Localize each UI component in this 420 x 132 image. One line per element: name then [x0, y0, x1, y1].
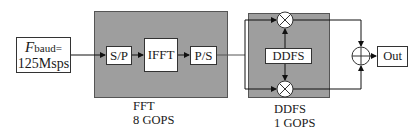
- ddfs-caption-ops: 1 GOPS: [274, 116, 315, 130]
- ps-block: P/S: [190, 46, 217, 65]
- input-rate-symbol: Fbaud=: [25, 40, 62, 56]
- multiplier-top-icon: [277, 12, 293, 28]
- fft-caption-name: FFT: [133, 99, 155, 113]
- ddfs-inner-block: DDFS: [265, 48, 312, 64]
- input-rate-subscript: baud: [34, 42, 55, 54]
- ifft-block: IFFT: [144, 38, 178, 72]
- input-rate-box: Fbaud= 125Msps: [16, 37, 71, 73]
- input-rate-value: 125Msps: [18, 56, 69, 71]
- output-block: Out: [377, 46, 408, 67]
- sp-block: S/P: [106, 46, 132, 65]
- adder-icon: [352, 47, 370, 65]
- fft-caption-ops: 8 GOPS: [133, 113, 174, 127]
- ddfs-caption-name: DDFS: [274, 102, 306, 116]
- multiplier-bottom-icon: [277, 81, 293, 97]
